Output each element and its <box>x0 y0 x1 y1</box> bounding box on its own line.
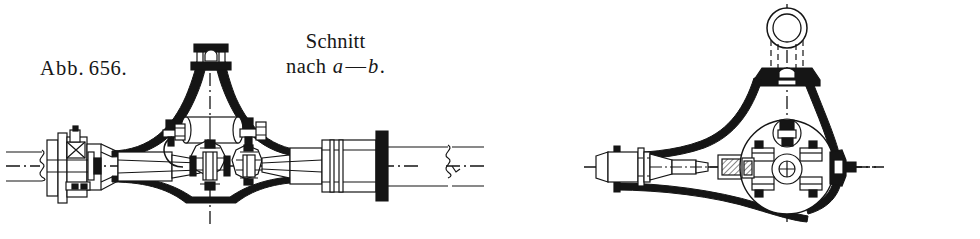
figure-label-656: Abb.656. <box>40 57 127 80</box>
spring-saddle-top <box>191 44 231 70</box>
abb-656-drawing <box>0 0 490 239</box>
section-note-line1: Schnitt <box>286 29 385 54</box>
abb-657-drawing <box>490 0 980 239</box>
section-suffix: . <box>380 55 386 77</box>
right-axle-tube <box>262 148 322 184</box>
section-letter-from: a <box>332 55 345 77</box>
section-note-prefix: nach <box>286 55 326 77</box>
break-line-right <box>446 145 451 178</box>
pinion-block <box>232 145 262 185</box>
left-axle-tube <box>118 152 200 181</box>
differential-assembly <box>163 117 266 190</box>
section-note-line2: nach a—b. <box>286 54 385 79</box>
section-letter-to: b <box>367 55 380 77</box>
figure-abb-657: Abb.657. Schnitt nach c—d. <box>490 0 980 239</box>
figure-abb-656: Abb.656. Schnitt nach a—b. <box>0 0 490 239</box>
figure-label-prefix: Abb. <box>40 57 85 79</box>
tube-tick <box>452 166 460 172</box>
break-line-left <box>40 150 45 181</box>
section-note-656: Schnitt nach a—b. <box>286 29 385 79</box>
section-dash: — <box>345 55 368 77</box>
left-hub-assembly <box>6 126 118 203</box>
illustration-plate: Abb.656. Schnitt nach a—b. <box>0 0 980 239</box>
right-hub-stub <box>830 150 884 186</box>
differential-case <box>740 119 834 214</box>
crown-wheel-cluster <box>190 140 230 190</box>
figure-label-number: 656. <box>85 57 127 79</box>
